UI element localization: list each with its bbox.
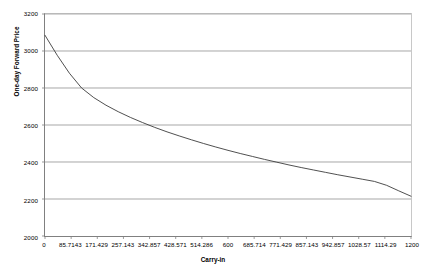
x-tick-label: 685.714 bbox=[243, 241, 266, 248]
x-tick-label: 428.571 bbox=[164, 241, 187, 248]
x-tick-label: 85.7143 bbox=[59, 241, 82, 248]
y-axis-title: One-day Forward Price bbox=[13, 2, 20, 122]
x-tick-label: 600 bbox=[223, 241, 233, 248]
y-tick-label: 2600 bbox=[24, 122, 38, 129]
x-tick-label: 857.143 bbox=[295, 241, 318, 248]
y-axis-tick-labels: 3200300028002600240022002000 bbox=[0, 0, 41, 273]
x-tick-label: 1114.29 bbox=[375, 241, 397, 248]
y-tick-label: 3200 bbox=[24, 10, 38, 17]
x-tick-label: 1028.57 bbox=[348, 241, 371, 248]
x-tick-label: 171.429 bbox=[85, 241, 108, 248]
x-tick-label: 257.143 bbox=[111, 241, 134, 248]
x-tick-label: 0 bbox=[42, 241, 46, 248]
plot-area bbox=[44, 13, 412, 237]
x-tick-label: 1200 bbox=[405, 241, 419, 248]
y-tick-label: 3000 bbox=[24, 47, 38, 54]
forward-price-chart: 3200300028002600240022002000 One-day For… bbox=[0, 0, 426, 273]
y-tick-label: 2400 bbox=[24, 159, 38, 166]
y-tick-label: 2800 bbox=[24, 84, 38, 91]
y-tick-label: 2000 bbox=[24, 234, 38, 241]
x-axis-title: Carry-in bbox=[0, 256, 426, 263]
data-series-line bbox=[45, 14, 411, 236]
y-tick-label: 2200 bbox=[24, 196, 38, 203]
x-tick-label: 771.429 bbox=[269, 241, 292, 248]
x-tick-label: 514.286 bbox=[190, 241, 213, 248]
x-tick-label: 942.857 bbox=[322, 241, 345, 248]
x-tick-label: 342.857 bbox=[138, 241, 161, 248]
x-axis-tick-labels: 085.7143171.429257.143342.857428.571514.… bbox=[0, 241, 426, 253]
